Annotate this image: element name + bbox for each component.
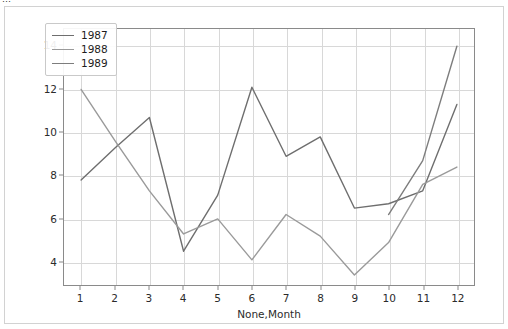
legend-swatch-1988: [52, 49, 74, 50]
x-tick-mark: [286, 286, 287, 290]
x-tick-label: 4: [180, 292, 187, 304]
legend-item-1989: 1989: [52, 56, 108, 70]
series-line-1988: [81, 89, 457, 275]
legend-swatch-1989: [52, 63, 74, 64]
x-tick-label: 10: [382, 292, 395, 304]
series-line-1987: [81, 87, 457, 251]
y-tick-label: 8: [17, 169, 57, 181]
y-tick-mark: [59, 132, 63, 133]
legend-label-1988: 1988: [81, 42, 108, 56]
y-tick-label: 12: [17, 83, 57, 95]
plot-lines: [64, 29, 474, 286]
x-tick-label: 2: [111, 292, 118, 304]
legend-label-1987: 1987: [81, 28, 108, 42]
x-tick-mark: [148, 286, 149, 290]
chart-legend: 1987 1988 1989: [45, 23, 117, 76]
x-tick-mark: [389, 286, 390, 290]
x-tick-label: 12: [451, 292, 464, 304]
x-tick-mark: [423, 286, 424, 290]
x-tick-mark: [183, 286, 184, 290]
y-tick-label: 4: [17, 256, 57, 268]
x-tick-mark: [251, 286, 252, 290]
clipped-top-text: …: [2, 0, 12, 4]
x-tick-mark: [320, 286, 321, 290]
y-tick-label: 6: [17, 213, 57, 225]
figure-panel: 468101214 123456789101112 None,Month 198…: [4, 6, 504, 324]
legend-swatch-1987: [52, 35, 74, 36]
x-axis-label: None,Month: [63, 308, 475, 320]
legend-item-1988: 1988: [52, 42, 108, 56]
y-tick-mark: [59, 88, 63, 89]
plot-axes: [63, 28, 475, 286]
x-tick-mark: [217, 286, 218, 290]
clipped-top-strip: …: [0, 0, 508, 5]
x-tick-label: 9: [351, 292, 358, 304]
y-tick-mark: [59, 262, 63, 263]
legend-label-1989: 1989: [81, 56, 108, 70]
x-tick-mark: [457, 286, 458, 290]
x-tick-label: 11: [417, 292, 430, 304]
y-tick-label: 10: [17, 126, 57, 138]
y-tick-mark: [59, 218, 63, 219]
x-tick-label: 1: [77, 292, 84, 304]
x-tick-label: 6: [248, 292, 255, 304]
x-tick-label: 5: [214, 292, 221, 304]
x-tick-label: 7: [283, 292, 290, 304]
y-tick-mark: [59, 175, 63, 176]
x-tick-label: 8: [317, 292, 324, 304]
x-tick-mark: [354, 286, 355, 290]
screenshot-root: … 468101214 123456789101112 None,Month 1…: [0, 0, 508, 329]
x-tick-mark: [80, 286, 81, 290]
x-tick-label: 3: [145, 292, 152, 304]
legend-item-1987: 1987: [52, 28, 108, 42]
x-tick-mark: [114, 286, 115, 290]
